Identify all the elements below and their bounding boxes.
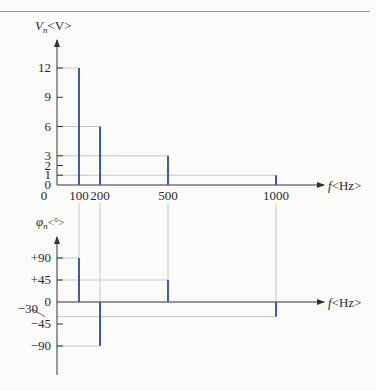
x-tick-label: 1000 bbox=[263, 188, 289, 203]
x-tick-label: 100 bbox=[69, 188, 89, 203]
amplitude-axis-label: Vn<V> bbox=[35, 18, 72, 35]
y-tick-label: 12 bbox=[38, 60, 51, 75]
guide-lines bbox=[57, 68, 276, 346]
x-tick-label: 500 bbox=[158, 188, 178, 203]
y-tick-label: 3 bbox=[45, 148, 52, 163]
y-tick-label: −90 bbox=[31, 338, 51, 353]
x-tick-label: 200 bbox=[90, 188, 110, 203]
frequency-axis-label: f<Hz> bbox=[328, 178, 361, 193]
y-tick-label: −45 bbox=[31, 316, 51, 331]
axes bbox=[33, 40, 324, 375]
y-tick-label: +45 bbox=[31, 272, 51, 287]
y-tick-label: +90 bbox=[31, 250, 51, 265]
y-tick-label: 6 bbox=[45, 119, 52, 134]
stem-bars bbox=[79, 68, 276, 346]
frequency-axis-label: f<Hz> bbox=[328, 295, 361, 310]
phase-axis-label: φn<°> bbox=[36, 214, 65, 231]
y-tick-label: 0 bbox=[45, 294, 52, 309]
x-tick-label: 0 bbox=[41, 188, 48, 203]
spectrum-chart: 0123691201002005001000Vn<V>f<Hz>+90+450−… bbox=[0, 0, 376, 391]
y-tick-label: 9 bbox=[45, 89, 52, 104]
y-tick-label: −30 bbox=[18, 301, 38, 316]
